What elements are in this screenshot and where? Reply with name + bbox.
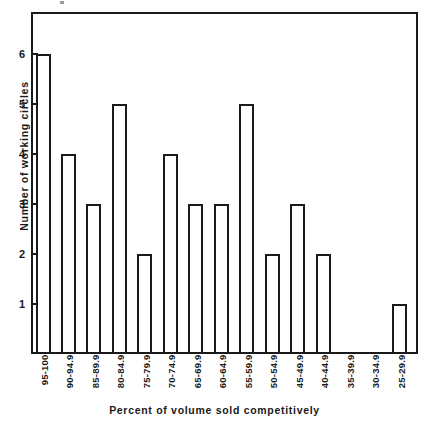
- bar-slot: [109, 12, 134, 354]
- bar-series: [31, 12, 418, 354]
- figure-container: Number of working circles 654321 95-1009…: [0, 0, 429, 425]
- bar-slot: [33, 12, 58, 354]
- x-tick-label: 55-59.9: [237, 356, 262, 406]
- x-tick-label-text: 75-79.9: [140, 355, 151, 405]
- bar-slot: [237, 12, 262, 354]
- y-tick-label: 6: [0, 46, 25, 62]
- y-tick-label: 1: [0, 296, 25, 312]
- bar: [137, 254, 152, 354]
- x-axis-tick-labels: 95-10090-94.985-89.980-84.975-79.970-74.…: [31, 356, 418, 406]
- bar-slot: [58, 12, 83, 354]
- x-axis-title: Percent of volume sold competitively: [0, 404, 429, 416]
- x-tick-label: 35-39.9: [339, 356, 364, 406]
- x-tick-label-text: 45-49.9: [293, 355, 304, 405]
- bar-slot: [364, 12, 389, 354]
- x-tick-label-text: 90-94.9: [64, 355, 75, 405]
- x-tick-label: 85-89.9: [84, 356, 109, 406]
- bar: [392, 304, 407, 354]
- x-tick-label-text: 80-84.9: [115, 355, 126, 405]
- y-tick-label: 5: [0, 96, 25, 112]
- bar: [61, 154, 76, 354]
- x-tick-label: 50-54.9: [262, 356, 287, 406]
- x-tick-label: 65-69.9: [186, 356, 211, 406]
- x-tick-label-text: 70-74.9: [166, 355, 177, 405]
- bar-slot: [160, 12, 185, 354]
- x-tick-label-text: 85-89.9: [89, 355, 100, 405]
- x-tick-label-text: 40-44.9: [319, 355, 330, 405]
- x-tick-label: 40-44.9: [313, 356, 338, 406]
- x-tick-label: 95-100: [33, 356, 58, 406]
- bar-slot: [313, 12, 338, 354]
- bar-slot: [135, 12, 160, 354]
- x-tick-label-text: 50-54.9: [268, 355, 279, 405]
- bar-slot: [288, 12, 313, 354]
- bar-slot: [390, 12, 415, 354]
- bar-slot: [339, 12, 364, 354]
- bar: [214, 204, 229, 354]
- x-tick-label: 30-34.9: [364, 356, 389, 406]
- x-tick-label: 45-49.9: [288, 356, 313, 406]
- y-tick-label: 4: [0, 146, 25, 162]
- x-tick-label: 60-64.9: [211, 356, 236, 406]
- x-tick-label: 25-29.9: [390, 356, 415, 406]
- x-tick-label: 75-79.9: [135, 356, 160, 406]
- x-tick-label-text: 35-39.9: [344, 355, 355, 405]
- x-tick-label: 70-74.9: [160, 356, 185, 406]
- bar-slot: [211, 12, 236, 354]
- bar: [112, 104, 127, 354]
- x-tick-label-text: 60-64.9: [217, 355, 228, 405]
- scan-artifact: [60, 1, 64, 4]
- x-tick-label: 90-94.9: [58, 356, 83, 406]
- x-tick-label: 80-84.9: [109, 356, 134, 406]
- x-tick-label-text: 30-34.9: [370, 355, 381, 405]
- x-tick-label-text: 65-69.9: [191, 355, 202, 405]
- x-tick-label-text: 55-59.9: [242, 355, 253, 405]
- bar: [86, 204, 101, 354]
- bar: [188, 204, 203, 354]
- bar-slot: [262, 12, 287, 354]
- bar: [316, 254, 331, 354]
- bar-slot: [84, 12, 109, 354]
- bar: [163, 154, 178, 354]
- y-tick-label: 2: [0, 246, 25, 262]
- x-tick-label-text: 25-29.9: [395, 355, 406, 405]
- bar: [239, 104, 254, 354]
- bar: [36, 54, 51, 354]
- bar: [265, 254, 280, 354]
- bar: [290, 204, 305, 354]
- x-tick-label-text: 95-100: [39, 355, 50, 405]
- bar-slot: [186, 12, 211, 354]
- y-tick-label: 3: [0, 196, 25, 212]
